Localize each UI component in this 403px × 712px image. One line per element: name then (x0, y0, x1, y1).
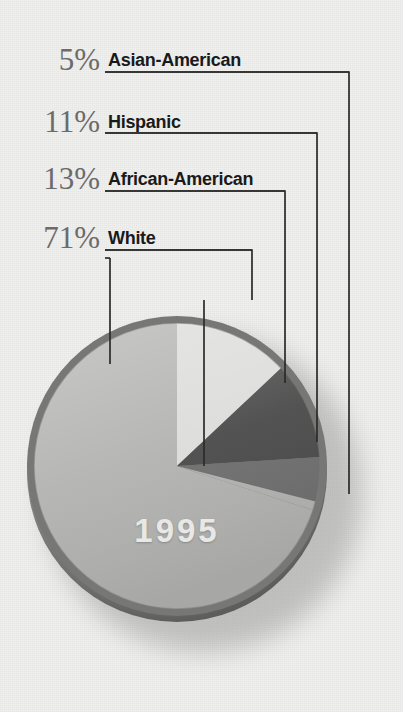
legend-percent-asian-american: 5% (38, 42, 100, 78)
legend-label-white: White (108, 228, 156, 249)
pie-chart: 1995 (18, 300, 388, 670)
legend-label-hispanic: Hispanic (108, 112, 181, 133)
pie-graphic (18, 300, 388, 670)
legend-row-white: 71% White (0, 216, 403, 262)
legend-row-asian-american: 5% Asian-American (0, 38, 403, 84)
legend-percent-african-american: 13% (28, 161, 100, 197)
pie-slices (34, 323, 320, 609)
pie-gloss (34, 323, 320, 609)
legend-percent-hispanic: 11% (28, 104, 100, 140)
legend-label-african-american: African-American (108, 169, 253, 190)
legend-percent-white: 71% (28, 220, 100, 256)
legend-row-hispanic: 11% Hispanic (0, 100, 403, 146)
pie-year-label: 1995 (18, 512, 336, 550)
legend-label-asian-american: Asian-American (108, 50, 241, 71)
legend: 5% Asian-American 11% Hispanic 13% Afric… (0, 0, 403, 300)
legend-row-african-american: 13% African-American (0, 157, 403, 203)
